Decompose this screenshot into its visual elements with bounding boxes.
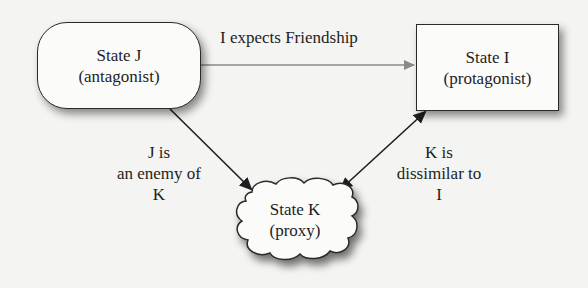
edge-label-line: dissimilar to bbox=[384, 163, 494, 184]
node-state-j: State J (antagonist) bbox=[37, 22, 201, 109]
node-state-k-title: State K bbox=[270, 199, 321, 220]
node-state-k: State K (proxy) bbox=[233, 195, 357, 245]
edge-label-line: J is bbox=[104, 142, 214, 163]
edge-label-j-enemy-of-k: J is an enemy of K bbox=[104, 142, 214, 205]
node-state-j-role: (antagonist) bbox=[78, 66, 159, 87]
edge-label-k-dissimilar-to-i: K is dissimilar to I bbox=[384, 142, 494, 205]
edge-label-line: K is bbox=[384, 142, 494, 163]
edge-label-i-expects-friendship: I expects Friendship bbox=[220, 27, 358, 48]
node-state-k-role: (proxy) bbox=[270, 220, 321, 241]
edge-label-line: K bbox=[104, 184, 214, 205]
edge-label-line: I bbox=[384, 184, 494, 205]
node-state-j-title: State J bbox=[97, 45, 142, 66]
edge-label-line: an enemy of bbox=[104, 163, 214, 184]
node-state-i: State I (protagonist) bbox=[416, 24, 559, 111]
node-state-i-role: (protagonist) bbox=[444, 68, 532, 89]
node-state-i-title: State I bbox=[466, 47, 510, 68]
